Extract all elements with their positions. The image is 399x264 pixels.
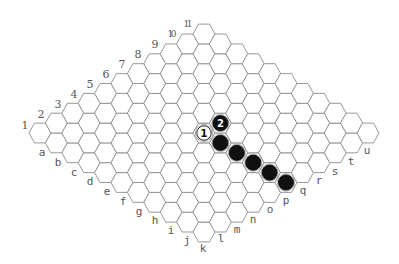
row-label: 7 [119,58,126,71]
hex-board: 12 1234567891011 abcdefghijklmnopqrstu [0,0,399,264]
black-stone [261,164,278,181]
column-label: q [300,184,307,197]
hex-board-svg: 12 1234567891011 abcdefghijklmnopqrstu [0,0,399,264]
black-stone [277,174,294,191]
row-label: 5 [87,78,94,91]
column-label: e [104,185,111,198]
black-stone [212,134,229,151]
row-label: 6 [103,68,110,81]
column-label: a [39,146,46,159]
column-label: m [234,223,241,236]
column-label: p [283,194,290,207]
black-stone [228,144,245,161]
black-stone [245,154,262,171]
column-label: l [218,232,225,245]
row-label: 8 [135,48,142,61]
column-label: f [120,195,127,208]
move-number-label: 2 [217,118,224,129]
white-stone: 1 [195,124,212,141]
column-label: o [267,203,274,216]
move-number-label: 1 [201,128,208,139]
column-label: t [348,155,355,168]
column-label: g [136,205,143,218]
column-label: i [168,224,175,237]
column-label: b [55,156,62,169]
row-label: 3 [55,98,62,111]
column-label: h [152,214,159,227]
row-label: 10 [168,29,177,39]
column-label: c [71,166,78,179]
column-label: s [332,165,339,178]
column-label: r [316,174,323,187]
row-label: 4 [71,88,78,101]
column-label: u [364,144,371,157]
column-label: j [184,234,191,247]
row-label: 2 [38,108,45,121]
row-label: 9 [152,38,159,51]
column-label: d [87,175,94,188]
row-label: 1 [22,119,29,132]
row-label: 11 [184,19,193,29]
column-label: n [250,213,257,226]
column-label: k [200,242,207,255]
black-stone: 2 [212,115,229,132]
